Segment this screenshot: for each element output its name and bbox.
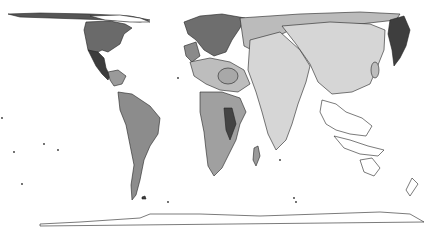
cartogram-svg (0, 0, 429, 230)
region-south-america (118, 92, 160, 200)
region-central-america (108, 70, 126, 86)
region-antarctica (40, 212, 424, 226)
region-sub-saharan-africa (200, 92, 246, 176)
region-japan-korea (388, 16, 410, 66)
region-new-zealand (406, 178, 418, 196)
region-australia-png (360, 158, 380, 176)
region-north-america (84, 21, 132, 54)
world-cartogram (0, 0, 429, 230)
region-indonesia (334, 136, 384, 156)
region-madagascar (253, 146, 260, 166)
region-europe-west (184, 42, 200, 62)
region-taiwan (371, 62, 379, 78)
region-mexico (88, 50, 110, 80)
region-arctic-islands (90, 15, 150, 22)
region-falklands (142, 196, 146, 199)
region-southeast-asia (320, 100, 372, 136)
region-middle-east (218, 68, 238, 84)
